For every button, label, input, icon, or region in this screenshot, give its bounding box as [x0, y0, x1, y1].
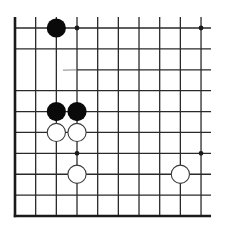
white-stone-icon — [47, 123, 65, 141]
black-stone-icon — [47, 102, 66, 121]
go-board-diagram — [0, 0, 227, 233]
board-edges — [14, 17, 211, 217]
star-point-icon — [199, 26, 204, 31]
star-point-icon — [199, 151, 204, 156]
grid-lines — [15, 17, 211, 216]
white-stone-icon — [171, 165, 189, 183]
scratch-mark — [63, 70, 77, 71]
go-board-canvas — [0, 0, 227, 233]
faded-line-segment — [63, 70, 77, 71]
black-stone-icon — [67, 102, 86, 121]
white-stone-icon — [68, 123, 86, 141]
black-stone-icon — [47, 18, 66, 37]
star-point-icon — [75, 26, 80, 31]
star-point-icon — [75, 151, 80, 156]
white-stone-icon — [68, 165, 86, 183]
